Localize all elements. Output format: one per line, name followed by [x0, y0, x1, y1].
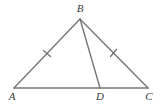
vertex-label-C: C: [145, 90, 153, 102]
geometry-figure: A B C D: [0, 0, 160, 104]
geometry-canvas: A B C D: [0, 0, 160, 104]
vertex-label-D: D: [95, 90, 104, 102]
vertex-label-A: A: [8, 90, 16, 102]
vertex-label-B: B: [77, 2, 84, 14]
